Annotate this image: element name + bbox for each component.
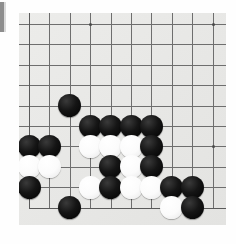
grid-line-horizontal-3 xyxy=(19,85,226,86)
star-point-top-right xyxy=(212,23,215,26)
stone-black-c0r8[interactable] xyxy=(19,176,41,199)
left-edge-marker-highlight xyxy=(4,2,6,32)
grid-line-horizontal-2 xyxy=(19,65,226,66)
stone-black-c4r8[interactable] xyxy=(99,176,122,199)
go-diagram-root xyxy=(0,0,236,244)
grid-line-horizontal-0 xyxy=(19,24,226,25)
grid-line-horizontal-1 xyxy=(19,44,226,45)
go-board[interactable] xyxy=(19,13,226,225)
grid-line-vertical-9 xyxy=(213,13,214,208)
grid-line-vertical-1 xyxy=(49,13,50,208)
grid-line-horizontal-4 xyxy=(19,106,226,107)
stone-black-c8r9[interactable] xyxy=(181,196,204,219)
